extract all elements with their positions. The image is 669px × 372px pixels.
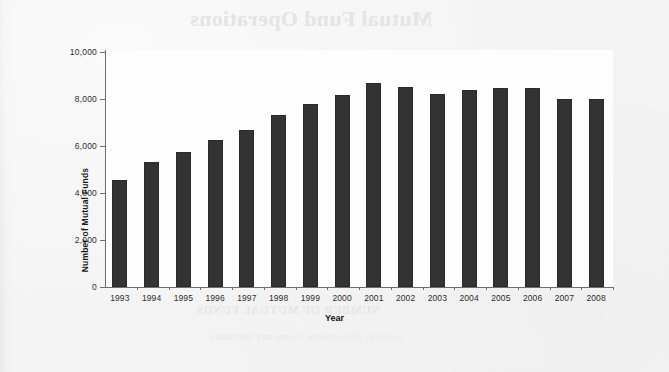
x-axis-tick-2001: [391, 287, 392, 290]
x-axis-label-2003: 2003: [422, 293, 454, 303]
x-axis-tick-1997: [264, 287, 265, 290]
x-axis-label-2008: 2008: [580, 293, 612, 303]
x-axis-tick-1999: [327, 287, 328, 290]
bar-1994: [144, 162, 159, 287]
x-axis-tick-2006: [550, 287, 551, 290]
x-axis-label-1996: 1996: [199, 293, 231, 303]
x-axis-tick-1998: [296, 287, 297, 290]
y-axis-tick-2000: [100, 240, 106, 241]
bar-2005: [493, 88, 508, 287]
bar-2003: [430, 94, 445, 287]
bar-1999: [303, 104, 318, 287]
bar-1993: [112, 180, 127, 287]
y-axis-tick-8000: [100, 99, 106, 100]
x-axis-label-2004: 2004: [453, 293, 485, 303]
bar-2004: [462, 90, 477, 287]
y-axis-label-10000: 10,000: [37, 47, 97, 57]
x-axis-label-2000: 2000: [326, 293, 358, 303]
x-axis-label-1995: 1995: [168, 293, 200, 303]
x-axis-label-2007: 2007: [549, 293, 581, 303]
x-axis-tick-2003: [454, 287, 455, 290]
x-axis-label-1993: 1993: [104, 293, 136, 303]
x-axis-tick-2008: [613, 287, 614, 290]
x-axis-tick-2007: [581, 287, 582, 290]
bar-chart: 02,0004,0006,0008,00010,000 Number of Mu…: [0, 0, 669, 372]
y-axis-title-wrapper: Number of Mutual Funds: [50, 95, 51, 96]
x-axis-tick-1995: [200, 287, 201, 290]
x-axis-label-2002: 2002: [390, 293, 422, 303]
x-axis-tick-1993: [137, 287, 138, 290]
bar-1998: [271, 115, 286, 287]
x-axis-title: Year: [0, 313, 669, 323]
x-axis-label-2001: 2001: [358, 293, 390, 303]
x-axis-label-1994: 1994: [136, 293, 168, 303]
bar-2002: [398, 87, 413, 287]
bar-2008: [589, 99, 604, 287]
y-axis-tick-10000: [100, 52, 106, 53]
bar-1996: [208, 140, 223, 287]
x-axis-tick-2002: [423, 287, 424, 290]
y-axis-tick-0: [100, 287, 106, 288]
x-axis-tick-2004: [486, 287, 487, 290]
x-axis-label-1999: 1999: [295, 293, 327, 303]
x-axis-label-1998: 1998: [263, 293, 295, 303]
x-axis-tick-1994: [169, 287, 170, 290]
bar-2007: [557, 99, 572, 287]
bar-2001: [366, 83, 381, 287]
bar-1997: [239, 130, 254, 287]
y-axis-title: Number of Mutual Funds: [80, 125, 90, 315]
x-axis-label-2005: 2005: [485, 293, 517, 303]
x-axis-tick-1996: [232, 287, 233, 290]
bar-1995: [176, 152, 191, 287]
x-axis-tick-2000: [359, 287, 360, 290]
x-axis-label-2006: 2006: [517, 293, 549, 303]
bar-2006: [525, 88, 540, 287]
y-axis-label-8000: 8,000: [37, 94, 97, 104]
y-axis-tick-4000: [100, 193, 106, 194]
x-axis-tick-2005: [518, 287, 519, 290]
y-axis-tick-6000: [100, 146, 106, 147]
x-axis-label-1997: 1997: [231, 293, 263, 303]
bar-2000: [335, 95, 350, 287]
y-axis-line: [105, 50, 106, 288]
